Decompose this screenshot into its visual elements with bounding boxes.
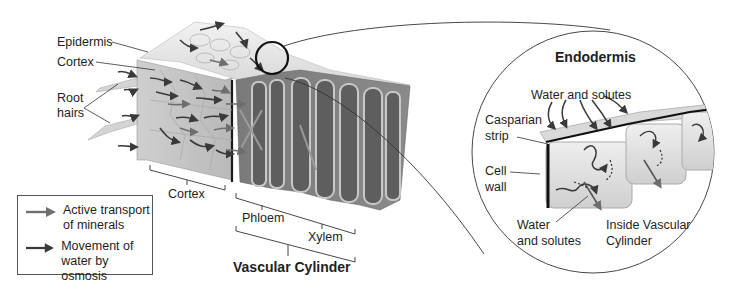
detail-inside-2: Cylinder bbox=[606, 234, 652, 249]
detail-water-solutes-top: Water and solutes bbox=[531, 88, 631, 103]
detail-casparian-2: strip bbox=[485, 129, 509, 144]
legend-item-active-transport: Active transport of minerals bbox=[18, 203, 150, 233]
water-osmosis-arrow-icon bbox=[26, 242, 54, 254]
detail-cell-wall-1: Cell bbox=[485, 164, 507, 179]
legend-water-line2: water by osmosis bbox=[61, 254, 152, 284]
legend-water-line1: Movement of bbox=[61, 239, 152, 254]
detail-title: Endodermis bbox=[555, 50, 636, 65]
active-transport-arrow-icon bbox=[26, 206, 56, 218]
label-epidermis: Epidermis bbox=[57, 35, 113, 50]
label-root-hairs-2: hairs bbox=[57, 106, 84, 121]
root-hair-shapes bbox=[88, 78, 137, 140]
label-cortex-top: Cortex bbox=[57, 55, 94, 70]
detail-water-solutes-bottom-1: Water bbox=[517, 218, 550, 233]
root-block bbox=[88, 22, 410, 210]
endodermis-detail-circle bbox=[472, 31, 722, 273]
legend-item-water-osmosis: Movement of water by osmosis bbox=[18, 239, 152, 284]
label-xylem: Xylem bbox=[308, 230, 343, 245]
detail-inside-1: Inside Vascular bbox=[606, 218, 691, 233]
label-phloem: Phloem bbox=[242, 211, 284, 226]
detail-cell-wall-2: wall bbox=[485, 180, 507, 195]
detail-water-solutes-bottom-2: and solutes bbox=[517, 234, 581, 249]
detail-casparian-1: Casparian bbox=[485, 113, 542, 128]
root-diagram: Epidermis Cortex Root hairs Cortex Phloe… bbox=[0, 0, 734, 295]
legend-active-line1: Active transport bbox=[63, 203, 150, 218]
label-cortex-bottom: Cortex bbox=[168, 187, 205, 202]
label-vascular-cylinder: Vascular Cylinder bbox=[233, 260, 351, 275]
label-root-hairs-1: Root bbox=[57, 91, 83, 106]
legend-active-line2: of minerals bbox=[63, 218, 150, 233]
legend: Active transport of minerals Movement of… bbox=[17, 195, 153, 275]
